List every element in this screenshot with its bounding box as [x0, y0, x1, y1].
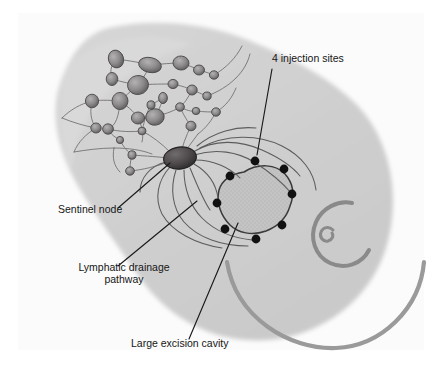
lymph-node [186, 121, 196, 131]
injection-site-dot [288, 190, 297, 199]
injection-site-dot [226, 172, 235, 181]
lymph-node [147, 101, 155, 109]
lymph-node [209, 71, 218, 79]
lymph-node [194, 65, 205, 75]
injection-site-dot [213, 199, 222, 208]
lymph-node [187, 85, 197, 95]
lymph-node [128, 151, 136, 159]
lymph-node [176, 103, 185, 111]
label-lymphatic-drainage-line2: pathway [104, 273, 144, 285]
lymph-node [106, 73, 118, 86]
lymph-node [126, 167, 135, 175]
label-lymphatic-drainage-line1: Lymphatic drainage [78, 261, 169, 273]
lymph-node [138, 127, 146, 135]
injection-site-dot [278, 221, 287, 230]
label-injection-sites: 4 injection sites [272, 52, 344, 64]
lymph-node [168, 79, 178, 88]
lymph-node [203, 92, 211, 100]
injection-site-dot [280, 165, 289, 174]
injection-site-dot [221, 225, 230, 234]
lymph-node [91, 123, 101, 133]
injection-site-dot [252, 235, 261, 244]
illustration-figure: 4 injection sites Sentinel node Lymphati… [0, 0, 442, 371]
lymph-node [103, 124, 114, 134]
label-excision-cavity: Large excision cavity [131, 337, 229, 349]
lymph-node [212, 108, 221, 116]
label-sentinel-node: Sentinel node [58, 203, 122, 215]
lymph-node [116, 136, 123, 143]
lymph-node [159, 92, 168, 103]
lymph-node [85, 94, 98, 108]
lymph-node [131, 112, 144, 124]
lymph-node [112, 92, 128, 109]
lymph-node [192, 107, 200, 114]
injection-site-dot [251, 157, 260, 166]
illustration-canvas: 4 injection sites Sentinel node Lymphati… [0, 0, 442, 371]
